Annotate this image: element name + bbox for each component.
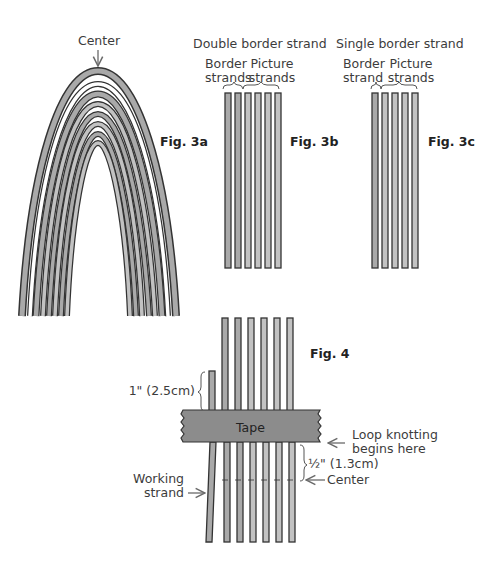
loop-label-line2: begins here (352, 442, 426, 456)
center-label-3a: Center (74, 34, 124, 48)
fig3c-border-label-line2: strand (343, 71, 383, 85)
fig4-lower-strands (206, 442, 295, 542)
fig3c-picture-label-line2: strands (387, 71, 435, 85)
fig3b-picture-label-line1: Picture (248, 57, 296, 71)
tape-label: Tape (236, 420, 265, 435)
gap-bracket (300, 445, 307, 481)
fig-3a-label: Fig. 3a (160, 134, 208, 149)
fig3c-picture-label-line1: Picture (387, 57, 435, 71)
fig3c-strands (372, 93, 418, 268)
working-strand-label-line1: Working (120, 472, 184, 486)
fig3b-border-label-line2: strands (205, 71, 245, 85)
loop-label-line1: Loop knotting (352, 428, 438, 442)
stub-bracket (198, 372, 205, 411)
fig3b-strands (225, 93, 281, 268)
fig4-upper-strands (209, 318, 293, 411)
working-strand-label-line2: strand (120, 486, 184, 500)
fig3b-border-label-line1: Border (205, 57, 245, 71)
center-label-fig4: Center (327, 473, 369, 487)
gap-length-label: ½" (1.3cm) (308, 457, 379, 471)
arch-strands (22, 71, 176, 316)
stub-length-label: 1" (2.5cm) (110, 384, 195, 398)
fig3c-border-label-line1: Border (343, 57, 383, 71)
fig-3c-label: Fig. 3c (428, 134, 475, 149)
fig-4-label: Fig. 4 (310, 346, 350, 361)
fig3b-title: Double border strand (193, 37, 327, 51)
fig-3b-label: Fig. 3b (290, 134, 339, 149)
fig3b-picture-label-line2: strands (248, 71, 296, 85)
fig3c-title: Single border strand (336, 37, 464, 51)
